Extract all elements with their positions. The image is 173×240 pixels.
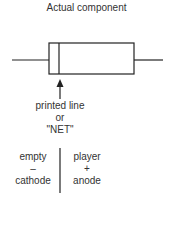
right-state: player (64, 151, 110, 163)
left-polarity: – (10, 163, 56, 175)
left-state: empty (10, 151, 56, 163)
marking-label-line2: or (10, 112, 110, 124)
left-terminal: cathode (10, 175, 56, 187)
right-terminal: anode (64, 175, 110, 187)
arrow-up-icon (57, 79, 64, 87)
component-body (49, 43, 134, 74)
marking-label-line3: "NET" (10, 124, 110, 136)
right-polarity: + (64, 163, 110, 175)
marking-label-line1: printed line (10, 100, 110, 112)
